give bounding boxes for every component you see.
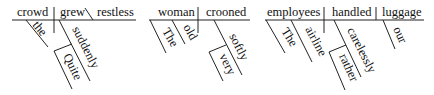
verb-word: handled	[332, 5, 372, 19]
diagram-3: employees handled luggage The airline ca…	[265, 5, 424, 90]
subject-word: crowd	[17, 5, 49, 19]
verb-word: grew	[60, 5, 85, 19]
modifier-word: airline	[302, 24, 330, 59]
modifier-word: The	[278, 25, 300, 49]
subject-word: employees	[267, 5, 321, 19]
subject-word: woman	[158, 5, 196, 19]
verb-word: crooned	[206, 5, 247, 19]
diagram-2: woman crooned The old softly very	[149, 5, 252, 81]
diagram-1: crowd grew restless the suddenly Quite	[12, 5, 136, 89]
complement-word: restless	[97, 5, 134, 19]
sentence-diagrams: crowd grew restless the suddenly Quite w…	[0, 0, 434, 95]
object-word: luggage	[382, 5, 422, 19]
complement-divider	[85, 8, 93, 20]
modifier-word: Quite	[60, 51, 85, 83]
modifier-word: the	[30, 18, 51, 39]
modifier-word: our	[390, 24, 410, 46]
